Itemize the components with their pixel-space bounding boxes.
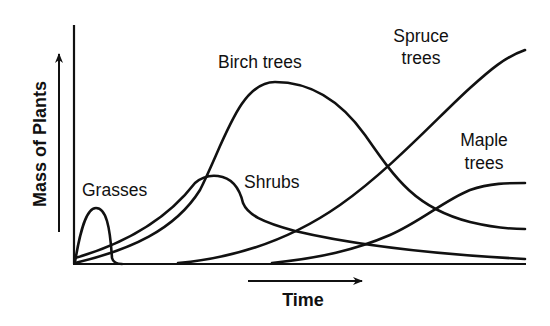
succession-chart: Mass of Plants Time Grasses Shrubs Birch…: [0, 0, 550, 326]
y-axis-label: Mass of Plants: [30, 81, 50, 207]
birch-trees-curve: [75, 82, 525, 263]
grasses-label: Grasses: [82, 180, 147, 200]
spruce-trees-label-line2: trees: [402, 48, 441, 68]
maple-trees-label-line1: Maple: [460, 130, 508, 150]
spruce-trees-label-line1: Spruce: [393, 26, 448, 46]
x-axis-label: Time: [282, 290, 324, 310]
maple-trees-label-line2: trees: [465, 153, 504, 173]
shrubs-label: Shrubs: [244, 172, 300, 192]
birch-trees-label: Birch trees: [218, 52, 302, 72]
